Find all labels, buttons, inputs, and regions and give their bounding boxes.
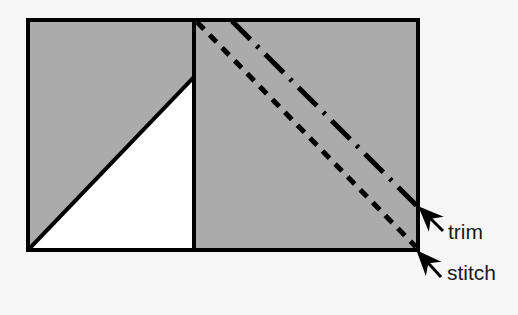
stitch-label: stitch [447,261,496,284]
quilting-diagram: trim stitch [0,0,518,315]
trim-label: trim [448,220,483,243]
diagram-canvas: trim stitch [0,0,518,315]
